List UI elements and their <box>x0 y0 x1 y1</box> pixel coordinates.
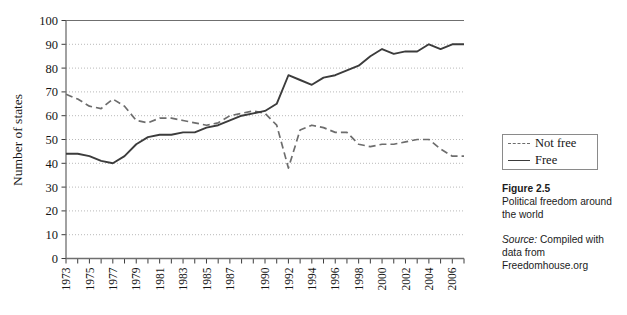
y-axis-tick-labels: 0102030405060708090100 <box>39 14 58 266</box>
x-tick-label: 1977 <box>107 267 119 290</box>
series-line-free <box>66 44 464 163</box>
x-tick-label: 1996 <box>329 267 341 290</box>
y-tick-label: 100 <box>39 14 58 28</box>
figure-source: Source: Compiled with data from Freedomh… <box>502 233 624 273</box>
y-tick-label: 40 <box>46 157 59 171</box>
x-tick-label: 1985 <box>201 267 213 290</box>
y-tick-label: 30 <box>46 181 59 195</box>
y-tick-label: 90 <box>46 38 59 52</box>
y-axis-ticks <box>62 21 67 259</box>
figure-number: Figure 2.5 <box>502 182 624 195</box>
y-tick-label: 70 <box>46 85 59 99</box>
x-tick-label: 1981 <box>154 267 166 290</box>
y-tick-label: 80 <box>46 62 59 76</box>
legend-item-free: Free <box>503 152 597 169</box>
chart-legend: Not free Free <box>502 134 598 170</box>
x-axis-ticks <box>66 259 464 264</box>
x-tick-label: 1987 <box>224 267 236 290</box>
legend-item-not-free: Not free <box>503 135 597 152</box>
x-tick-label: 1994 <box>306 267 318 290</box>
x-tick-label: 2006 <box>446 267 458 290</box>
x-tick-label: 1975 <box>84 267 96 290</box>
source-label: Source: <box>502 234 537 245</box>
x-tick-label: 1998 <box>353 267 365 290</box>
solid-line-icon <box>508 156 530 166</box>
x-axis-tick-labels: 1973197519771979198119831985198719901992… <box>60 267 458 290</box>
x-tick-label: 1979 <box>130 267 142 290</box>
figure-container: 0102030405060708090100 19731975197719791… <box>0 0 627 315</box>
x-tick-label: 2002 <box>400 267 412 290</box>
dashed-line-icon <box>508 139 530 149</box>
y-axis-title: Number of states <box>10 94 25 186</box>
chart-area: 0102030405060708090100 19731975197719791… <box>0 0 480 315</box>
y-tick-label: 20 <box>46 204 59 218</box>
x-tick-label: 1973 <box>60 267 72 290</box>
gridlines <box>66 44 464 234</box>
x-tick-label: 1992 <box>283 267 295 290</box>
series-line-not-free <box>66 94 464 168</box>
x-tick-label: 1990 <box>259 267 271 290</box>
legend-label-free: Free <box>535 153 557 168</box>
y-tick-label: 0 <box>52 252 58 266</box>
y-tick-label: 10 <box>46 228 59 242</box>
figure-description: Political freedom around the world <box>502 195 624 221</box>
x-tick-label: 2004 <box>423 267 435 290</box>
y-tick-label: 50 <box>46 133 59 147</box>
x-tick-label: 1983 <box>177 267 189 290</box>
y-tick-label: 60 <box>46 109 59 123</box>
x-tick-label: 2000 <box>376 267 388 290</box>
legend-label-not-free: Not free <box>535 136 576 151</box>
data-series-layer <box>66 44 464 168</box>
line-chart: 0102030405060708090100 19731975197719791… <box>0 0 480 315</box>
figure-caption: Figure 2.5 Political freedom around the … <box>502 182 624 272</box>
